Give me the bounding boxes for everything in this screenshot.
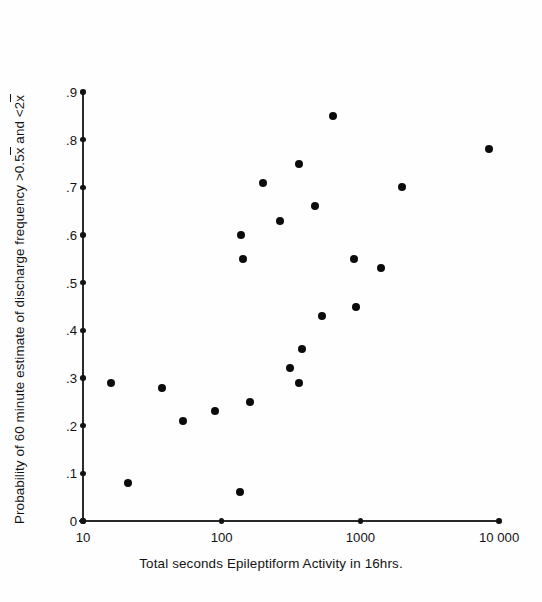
data-point xyxy=(295,379,303,387)
y-axis-tick-mark xyxy=(80,280,86,286)
y-axis-tick-label: .4 xyxy=(51,323,77,338)
y-axis-tick-label: .3 xyxy=(51,371,77,386)
data-point xyxy=(311,202,319,210)
data-point xyxy=(352,303,360,311)
y-axis-tick-label: .5 xyxy=(51,275,77,290)
x-axis-tick-label: 10 xyxy=(76,530,91,545)
x-axis-line xyxy=(79,520,496,522)
y-axis-line xyxy=(82,92,84,521)
data-point xyxy=(329,112,337,120)
y-axis-tick-mark xyxy=(80,328,86,334)
data-point xyxy=(295,160,303,168)
data-point xyxy=(107,379,115,387)
data-point xyxy=(276,217,284,225)
y-axis-tick-mark xyxy=(80,232,86,238)
y-axis-tick-mark xyxy=(80,89,86,95)
data-point xyxy=(158,384,166,392)
x-axis-title: Total seconds Epileptiform Activity in 1… xyxy=(0,556,542,571)
x-axis-tick-mark xyxy=(358,518,364,524)
plot-area: 0.1.2.3.4.5.6.7.8.910100100010 000 xyxy=(0,0,542,602)
y-axis-tick-label: .7 xyxy=(51,180,77,195)
data-point xyxy=(259,179,267,187)
y-axis-tick-label: .6 xyxy=(51,228,77,243)
data-point xyxy=(298,345,306,353)
data-point xyxy=(239,255,247,263)
x-axis-tick-label: 1000 xyxy=(346,530,375,545)
y-axis-tick-label: .1 xyxy=(51,466,77,481)
y-axis-tick-label: .9 xyxy=(51,85,77,100)
x-axis-tick-label: 100 xyxy=(211,530,233,545)
x-axis-tick-mark xyxy=(496,518,502,524)
y-axis-tick-mark xyxy=(80,471,86,477)
data-point xyxy=(179,417,187,425)
y-axis-tick-label: 0 xyxy=(51,514,77,529)
y-axis-tick-label: .2 xyxy=(51,418,77,433)
data-point xyxy=(236,488,244,496)
data-point xyxy=(318,312,326,320)
x-axis-tick-label: 10 000 xyxy=(479,530,519,545)
data-point xyxy=(237,231,245,239)
data-point xyxy=(211,407,219,415)
y-axis-tick-mark xyxy=(80,185,86,191)
x-axis-tick-mark xyxy=(80,518,86,524)
data-point xyxy=(350,255,358,263)
y-axis-tick-mark xyxy=(80,375,86,381)
x-axis-tick-mark xyxy=(219,518,225,524)
data-point xyxy=(286,364,294,372)
y-axis-tick-mark xyxy=(80,137,86,143)
y-axis-tick-mark xyxy=(80,423,86,429)
y-axis-tick-label: .8 xyxy=(51,132,77,147)
data-point xyxy=(377,264,385,272)
scatter-plot-figure: Probability of 60 minute estimate of dis… xyxy=(0,0,542,602)
data-point xyxy=(124,479,132,487)
data-point xyxy=(398,183,406,191)
data-point xyxy=(246,398,254,406)
data-point xyxy=(485,145,493,153)
